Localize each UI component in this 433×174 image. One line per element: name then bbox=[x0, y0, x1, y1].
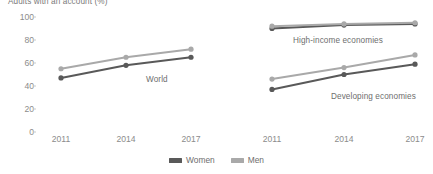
x-tick-label: 2017 bbox=[405, 134, 424, 144]
y-tick-label: 20 bbox=[8, 104, 34, 114]
panel-world: World 201120142017 bbox=[38, 0, 220, 174]
chart-legend: Women Men bbox=[0, 155, 433, 165]
y-tick-label: 40 bbox=[8, 81, 34, 91]
panel-economies: High-income economies Developing economi… bbox=[255, 0, 433, 174]
y-tick-mark bbox=[33, 109, 36, 110]
series-label-developing-economies: Developing economies bbox=[331, 92, 416, 101]
data-point-women bbox=[58, 75, 63, 80]
y-tick-mark bbox=[33, 132, 36, 133]
series-label-world: World bbox=[146, 75, 168, 84]
legend-label-women: Women bbox=[186, 155, 215, 165]
x-tick-label: 2017 bbox=[181, 134, 200, 144]
chart-figure: Adults with an account (%) 020406080100 … bbox=[0, 0, 433, 174]
data-point-women bbox=[269, 87, 274, 92]
y-axis: 020406080100 bbox=[4, 0, 34, 174]
y-tick-mark bbox=[33, 63, 36, 64]
data-point-women bbox=[412, 62, 417, 67]
legend-swatch-men bbox=[231, 158, 244, 163]
y-tick-label: 100 bbox=[8, 12, 34, 22]
series-lines-economies bbox=[255, 0, 433, 174]
data-point-men bbox=[341, 21, 346, 26]
data-point-men bbox=[58, 66, 63, 71]
y-tick-mark bbox=[33, 86, 36, 87]
legend-item-women: Women bbox=[169, 155, 215, 165]
data-point-men bbox=[412, 52, 417, 57]
legend-label-men: Men bbox=[248, 155, 264, 165]
plot-area-economies bbox=[255, 0, 433, 174]
data-point-men bbox=[123, 55, 128, 60]
x-tick-label: 2014 bbox=[334, 134, 353, 144]
legend-item-men: Men bbox=[231, 155, 264, 165]
y-tick-label: 60 bbox=[8, 58, 34, 68]
y-tick-mark bbox=[33, 17, 36, 18]
legend-swatch-women bbox=[169, 158, 182, 163]
plot-area-world bbox=[38, 0, 220, 174]
data-point-women bbox=[123, 63, 128, 68]
y-tick-label: 80 bbox=[8, 35, 34, 45]
series-lines-world bbox=[38, 0, 220, 174]
data-point-men bbox=[188, 47, 193, 52]
data-point-men bbox=[412, 20, 417, 25]
data-point-men bbox=[341, 65, 346, 70]
x-tick-label: 2011 bbox=[263, 134, 281, 144]
data-point-men bbox=[269, 24, 274, 29]
data-point-women bbox=[188, 55, 193, 60]
data-point-men bbox=[269, 77, 274, 82]
x-tick-label: 2011 bbox=[52, 134, 70, 144]
y-tick-label: 0 bbox=[8, 127, 34, 137]
x-tick-label: 2014 bbox=[116, 134, 135, 144]
data-point-women bbox=[341, 72, 346, 77]
series-label-high-income-economies: High-income economies bbox=[293, 36, 383, 45]
y-tick-mark bbox=[33, 40, 36, 41]
